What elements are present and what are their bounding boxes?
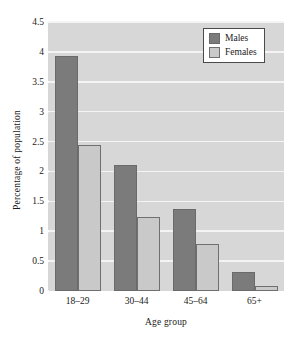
gridline xyxy=(48,111,284,113)
y-axis-tick-label: 3 xyxy=(4,107,44,117)
y-axis-tick-mark xyxy=(45,201,49,202)
legend-label: Females xyxy=(225,47,257,58)
legend-label: Males xyxy=(225,33,248,44)
bar-females-0 xyxy=(78,145,101,291)
legend-item: Females xyxy=(209,47,257,58)
y-axis-tick-mark xyxy=(45,171,49,172)
y-axis-tick-mark xyxy=(45,21,49,22)
y-axis-tick-label: 4.5 xyxy=(4,17,44,27)
bar-chart-figure: Percentage of population Age group Males… xyxy=(0,0,295,343)
chart-legend: MalesFemales xyxy=(203,28,265,63)
y-axis-tick-label: 2 xyxy=(4,166,44,176)
bar-males-2 xyxy=(173,209,196,291)
y-axis-tick-mark xyxy=(45,81,49,82)
y-axis-tick-mark xyxy=(45,290,49,291)
y-axis-tick-mark xyxy=(45,141,49,142)
y-axis-tick-mark xyxy=(45,51,49,52)
y-axis-tick-label: 1 xyxy=(4,226,44,236)
bar-females-2 xyxy=(196,244,219,291)
gridline xyxy=(48,81,284,83)
x-axis-title: Age group xyxy=(48,317,284,327)
bar-females-1 xyxy=(137,217,160,291)
y-axis-tick-mark xyxy=(45,260,49,261)
y-axis-tick-label: 2.5 xyxy=(4,137,44,147)
y-axis-tick-mark xyxy=(45,231,49,232)
x-axis-tick-label: 65+ xyxy=(220,296,290,306)
bar-females-3 xyxy=(255,286,278,291)
legend-swatch-females-icon xyxy=(209,47,220,58)
bar-males-3 xyxy=(232,272,255,291)
y-axis-tick-label: 1.5 xyxy=(4,196,44,206)
gridline xyxy=(48,21,284,23)
y-axis-tick-mark xyxy=(45,111,49,112)
bar-males-0 xyxy=(55,56,78,291)
legend-item: Males xyxy=(209,33,257,44)
legend-swatch-males-icon xyxy=(209,33,220,44)
bar-males-1 xyxy=(114,165,137,291)
y-axis-tick-label: 0.5 xyxy=(4,256,44,266)
y-axis-tick-label: 3.5 xyxy=(4,77,44,87)
y-axis-tick-label: 0 xyxy=(4,286,44,296)
y-axis-tick-label: 4 xyxy=(4,47,44,57)
gridline xyxy=(48,141,284,143)
